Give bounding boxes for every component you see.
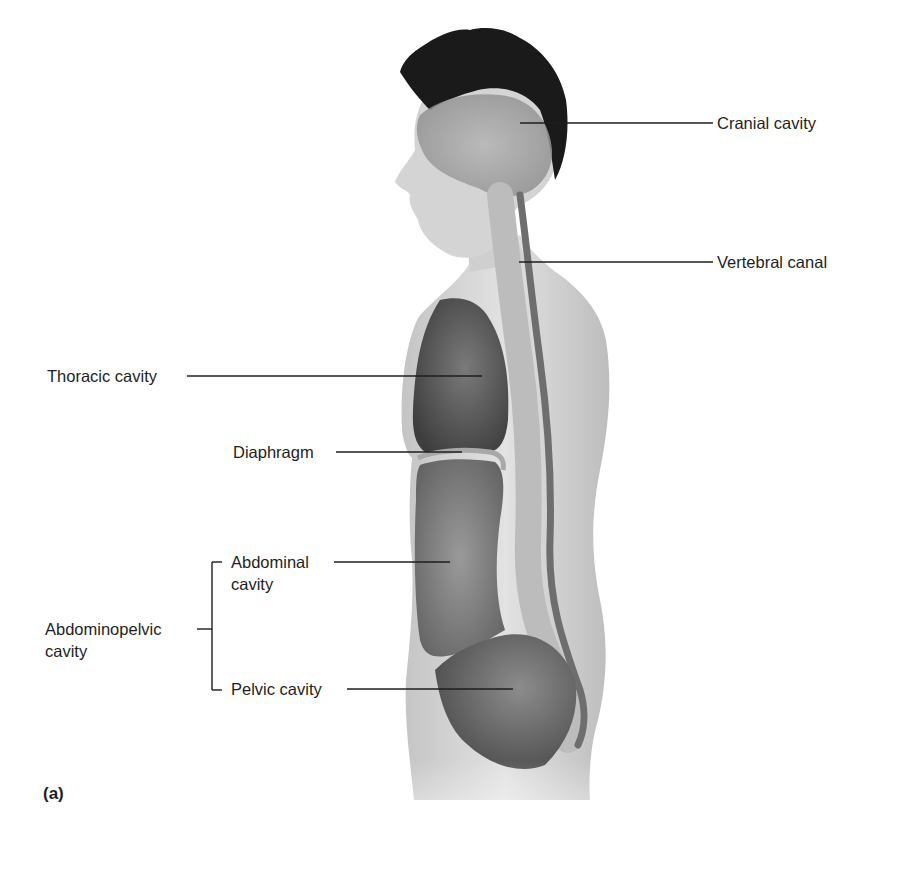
body-cavities-figure: Cranial cavity Vertebral canal Thoracic … (0, 0, 904, 877)
label-thoracic-cavity: Thoracic cavity (47, 366, 157, 387)
label-abdominal-cavity-line2: cavity (231, 574, 273, 595)
label-vertebral-canal: Vertebral canal (717, 252, 827, 273)
panel-label: (a) (43, 784, 64, 804)
abdominal-cavity-region (415, 459, 505, 656)
label-diaphragm: Diaphragm (233, 442, 314, 463)
label-abdominal-cavity-line1: Abdominal (231, 552, 309, 573)
label-abdominopelvic-cavity-line1: Abdominopelvic (45, 619, 161, 640)
label-pelvic-cavity: Pelvic cavity (231, 679, 322, 700)
label-cranial-cavity: Cranial cavity (717, 113, 816, 134)
label-abdominopelvic-cavity-line2: cavity (45, 641, 87, 662)
